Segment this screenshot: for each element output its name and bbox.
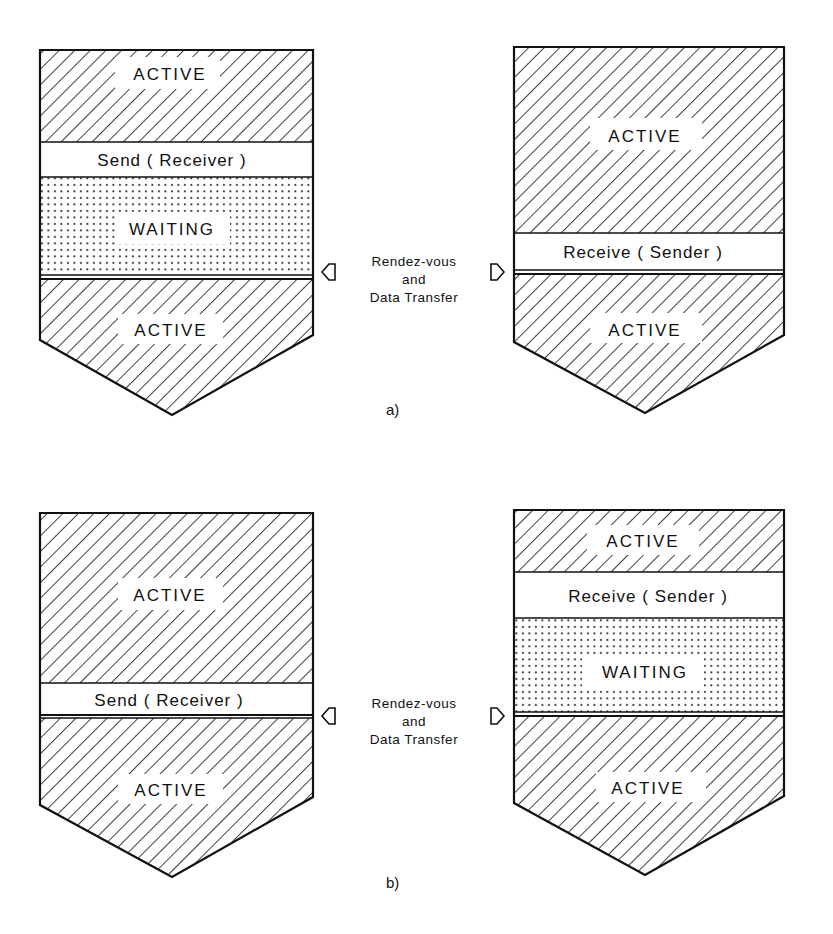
- diagram-b-left-process: ACTIVE Send ( Receiver ) ACTIVE: [40, 513, 313, 877]
- receive-operation-label: Receive ( Sender ): [563, 243, 723, 262]
- arrow-right-icon: [491, 708, 504, 724]
- send-operation-label: Send ( Receiver ): [94, 691, 243, 710]
- diagram-b-right-process: ACTIVE Receive ( Sender ) WAITING ACTIVE: [514, 510, 784, 875]
- arrow-left-icon: [322, 264, 335, 280]
- diagram-a-right-process: ACTIVE Receive ( Sender ) ACTIVE: [514, 47, 784, 413]
- and-label: and: [402, 714, 426, 729]
- diagram-a-connector: Rendez-vous and Data Transfer: [322, 254, 504, 305]
- receive-operation-label: Receive ( Sender ): [568, 587, 728, 606]
- caption-a: a): [386, 401, 399, 418]
- rendezvous-diagram: ACTIVE Send ( Receiver ) WAITING ACTIVE …: [0, 0, 833, 934]
- state-label-active: ACTIVE: [608, 127, 681, 146]
- diagram-b-connector: Rendez-vous and Data Transfer: [322, 696, 504, 747]
- active-region: [40, 279, 313, 415]
- diagram-a: ACTIVE Send ( Receiver ) WAITING ACTIVE …: [40, 47, 784, 418]
- state-label-active: ACTIVE: [134, 321, 207, 340]
- rendezvous-label: Rendez-vous: [371, 254, 456, 269]
- diagram-b: ACTIVE Send ( Receiver ) ACTIVE ACTIVE R…: [40, 510, 784, 891]
- state-label-active: ACTIVE: [133, 586, 206, 605]
- rendezvous-label: Rendez-vous: [371, 696, 456, 711]
- send-operation-label: Send ( Receiver ): [97, 151, 246, 170]
- active-region: [514, 274, 784, 413]
- arrow-right-icon: [491, 264, 504, 280]
- and-label: and: [402, 272, 426, 287]
- data-transfer-label: Data Transfer: [370, 290, 458, 305]
- state-label-active: ACTIVE: [606, 532, 679, 551]
- data-transfer-label: Data Transfer: [370, 732, 458, 747]
- state-label-waiting: WAITING: [602, 663, 688, 682]
- state-label-active: ACTIVE: [611, 779, 684, 798]
- state-label-active: ACTIVE: [608, 321, 681, 340]
- state-label-active: ACTIVE: [133, 65, 206, 84]
- diagram-a-left-process: ACTIVE Send ( Receiver ) WAITING ACTIVE: [40, 50, 313, 415]
- caption-b: b): [386, 874, 399, 891]
- arrow-left-icon: [322, 708, 335, 724]
- state-label-waiting: WAITING: [129, 220, 215, 239]
- state-label-active: ACTIVE: [134, 781, 207, 800]
